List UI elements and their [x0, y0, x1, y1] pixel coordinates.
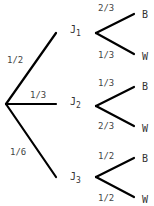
prob-j3-w: 1/2	[98, 194, 114, 203]
outcome-j3-w: W	[142, 195, 148, 205]
prob-root-j2: 1/3	[30, 91, 46, 100]
prob-j1-b: 2/3	[98, 4, 114, 13]
node-j1: J1	[70, 25, 81, 35]
prob-root-j3: 1/6	[10, 148, 26, 157]
edge-j2-b	[96, 87, 134, 106]
prob-j2-w: 2/3	[98, 122, 114, 131]
prob-root-j1: 1/2	[7, 56, 23, 65]
outcome-j1-w: W	[142, 52, 148, 62]
prob-j2-b: 1/3	[98, 79, 114, 88]
outcome-j2-b: B	[142, 82, 148, 92]
prob-j1-w: 1/3	[98, 51, 114, 60]
outcome-j2-w: W	[142, 124, 148, 134]
node-j2: J2	[70, 97, 81, 107]
node-j3: J3	[70, 172, 81, 182]
edge-j1-b	[96, 14, 134, 33]
outcome-j3-b: B	[142, 154, 148, 164]
edge-root-j3	[6, 104, 56, 177]
prob-j3-b: 1/2	[98, 152, 114, 161]
outcome-j1-b: B	[142, 10, 148, 20]
